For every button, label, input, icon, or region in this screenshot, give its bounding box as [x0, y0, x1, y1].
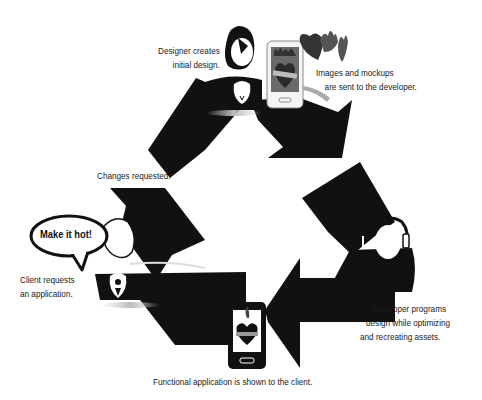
- designer-label-line2: initial design.: [158, 58, 220, 72]
- images-label: Images and mockups are sent to the devel…: [316, 66, 417, 94]
- right-arrow: [302, 162, 415, 296]
- images-label-line2: are sent to the developer.: [316, 80, 417, 94]
- changes-label-line1: Changes requested.: [97, 169, 171, 183]
- client-label: Client requests an application.: [20, 273, 75, 301]
- phone-app-icon: [228, 302, 266, 369]
- speech-bubble-text: Make it hot!: [40, 228, 92, 240]
- speech-bubble: [31, 216, 107, 270]
- designer-label-line1: Designer creates: [158, 44, 220, 58]
- developer-label-line2: design while optimizing: [360, 316, 450, 330]
- client-label-line2: an application.: [20, 287, 75, 301]
- images-label-line1: Images and mockups: [316, 66, 417, 80]
- functional-label: Functional application is shown to the c…: [153, 375, 312, 389]
- designer-label: Designer creates initial design.: [158, 44, 220, 72]
- client-label-line1: Client requests: [20, 273, 75, 287]
- left-arrow: [95, 188, 246, 345]
- developer-label-line1: Developer programs: [360, 302, 450, 316]
- workflow-cycle-diagram: Designer creates initial design. Images …: [0, 0, 482, 400]
- functional-label-line1: Functional application is shown to the c…: [153, 375, 312, 389]
- developer-label: Developer programs design while optimizi…: [360, 302, 450, 344]
- changes-label: Changes requested.: [97, 169, 171, 183]
- developer-label-line3: and recreating assets.: [360, 330, 450, 344]
